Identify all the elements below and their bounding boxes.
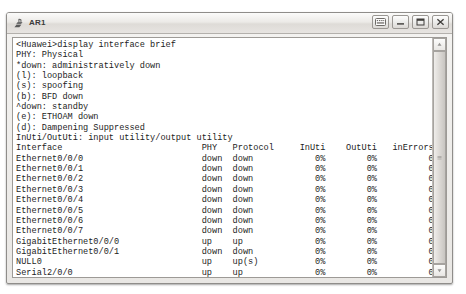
terminal-line: Ethernet0/0/3 down down 0% 0% 0 0	[16, 185, 432, 195]
terminal-line: Ethernet0/0/0 down down 0% 0% 0 0	[16, 154, 432, 164]
scrollbar-track[interactable]	[433, 51, 446, 264]
scrollbar-thumb[interactable]	[433, 51, 446, 264]
terminal-line: NULL0 up up(s) 0% 0% 0 0	[16, 257, 432, 267]
maximize-button[interactable]	[412, 15, 429, 29]
terminal-line: (d): Dampening Suppressed	[16, 123, 432, 133]
terminal-line: Ethernet0/0/6 down down 0% 0% 0 0	[16, 216, 432, 226]
scroll-down-button[interactable]	[433, 264, 446, 277]
window-title: AR1	[29, 19, 46, 27]
terminal-line: Ethernet0/0/1 down down 0% 0% 0 0	[16, 164, 432, 174]
screen: AR1	[0, 0, 466, 294]
terminal-line: GigabitEthernet0/0/0 up up 0% 0% 0 0	[16, 237, 432, 247]
terminal-line: Ethernet0/0/4 down down 0% 0% 0 0	[16, 195, 432, 205]
keyboard-button[interactable]	[372, 15, 389, 29]
terminal-line: ^down: standby	[16, 102, 432, 112]
keyboard-icon	[375, 18, 386, 26]
terminal-output[interactable]: <Huawei>display interface briefPHY: Phys…	[13, 38, 432, 277]
terminal-line: *down: administratively down	[16, 61, 432, 71]
scrollbar-grip-icon	[437, 155, 442, 160]
minimize-icon	[396, 18, 405, 26]
window-titlebar[interactable]: AR1	[7, 13, 452, 34]
terminal-line: (s): spoofing	[16, 81, 432, 91]
terminal-line: (e): ETHOAM down	[16, 112, 432, 122]
vertical-scrollbar[interactable]	[432, 38, 446, 277]
terminal-line: Serial2/0/0 up up 0% 0% 0 0	[16, 268, 432, 277]
scroll-up-button[interactable]	[433, 38, 446, 51]
terminal-line: (b): BFD down	[16, 92, 432, 102]
terminal-line: Ethernet0/0/5 down down 0% 0% 0 0	[16, 206, 432, 216]
terminal-line: GigabitEthernet0/0/1 down down 0% 0% 0 0	[16, 247, 432, 257]
terminal-line: Interface PHY Protocol InUti OutUti inEr…	[16, 143, 432, 153]
console-window: AR1	[6, 12, 453, 284]
terminal-line: <Huawei>display interface brief	[16, 40, 432, 50]
router-icon	[12, 17, 25, 30]
terminal-line: PHY: Physical	[16, 50, 432, 60]
scroll-down-icon	[437, 268, 442, 273]
terminal-line: Ethernet0/0/2 down down 0% 0% 0 0	[16, 174, 432, 184]
terminal-line: (l): loopback	[16, 71, 432, 81]
scroll-up-icon	[437, 42, 442, 47]
terminal-panel: <Huawei>display interface briefPHY: Phys…	[12, 37, 447, 278]
window-controls	[372, 15, 449, 29]
close-icon	[436, 18, 445, 26]
maximize-icon	[416, 18, 425, 26]
terminal-line: Ethernet0/0/7 down down 0% 0% 0 0	[16, 226, 432, 236]
terminal-line: InUti/OutUti: input utility/output utili…	[16, 133, 432, 143]
minimize-button[interactable]	[392, 15, 409, 29]
close-button[interactable]	[432, 15, 449, 29]
